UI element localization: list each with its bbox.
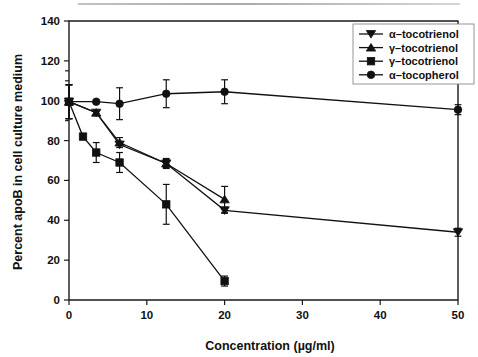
legend-label: γ–tocotrienol	[389, 55, 458, 67]
data-point-square	[221, 277, 228, 284]
x-tick-label: 50	[452, 309, 465, 321]
data-point-square	[79, 133, 86, 140]
series-4	[65, 80, 462, 120]
data-point-triangle-up	[220, 195, 229, 203]
series-1	[64, 85, 462, 237]
y-tick-label: 140	[41, 15, 60, 27]
data-point-circle	[65, 98, 73, 106]
figure-container: 020406080100120140 01020304050 α–tocotri…	[0, 0, 478, 357]
series-line	[69, 102, 458, 233]
y-tick-label: 40	[47, 214, 60, 226]
x-axis-ticks	[69, 300, 458, 305]
data-point-circle	[162, 90, 170, 98]
y-tick-label: 60	[47, 174, 60, 186]
y-axis-tick-labels: 020406080100120140	[41, 15, 60, 306]
data-point-circle	[116, 100, 124, 108]
series-3	[65, 85, 228, 286]
circle-icon	[367, 71, 375, 79]
line-chart: 020406080100120140 01020304050 α–tocotri…	[0, 0, 478, 357]
data-point-square	[163, 201, 170, 208]
y-tick-label: 100	[41, 95, 60, 107]
series-line	[69, 92, 458, 110]
data-point-square	[93, 149, 100, 156]
square-icon	[367, 58, 374, 65]
x-tick-label: 40	[374, 309, 387, 321]
series-2	[64, 85, 229, 213]
data-series-layer	[64, 80, 462, 286]
y-axis-title: Percent apoB in cell culture medium	[11, 54, 25, 270]
data-point-circle	[221, 88, 229, 96]
legend-label: α–tocotrienol	[389, 28, 459, 40]
legend-label: γ–tocotrienol	[389, 42, 458, 54]
y-tick-label: 120	[41, 55, 60, 67]
y-tick-label: 80	[47, 135, 60, 147]
data-point-circle	[92, 98, 100, 106]
legend-label: α–tocopherol	[389, 69, 459, 81]
chart-legend: α–tocotrienolγ–tocotrienolγ–tocotrienolα…	[353, 24, 474, 84]
x-tick-label: 30	[296, 309, 309, 321]
x-tick-label: 20	[218, 309, 231, 321]
data-point-circle	[454, 106, 462, 114]
data-point-square	[116, 159, 123, 166]
x-tick-label: 0	[66, 309, 72, 321]
y-tick-label: 20	[47, 254, 60, 266]
x-axis-tick-labels: 01020304050	[66, 309, 465, 321]
y-axis-ticks	[64, 21, 69, 300]
x-tick-label: 10	[140, 309, 153, 321]
x-axis-title: Concentration (µg/ml)	[205, 339, 334, 353]
y-tick-label: 0	[54, 294, 60, 306]
